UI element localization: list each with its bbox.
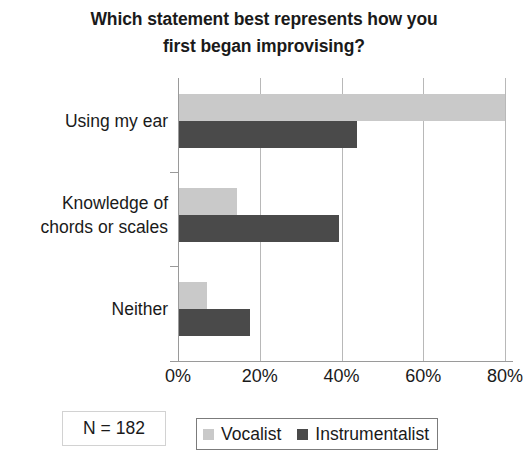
y-axis-category-label-line: chords or scales [0,215,168,239]
y-axis-category-label: Using my ear [0,109,168,133]
x-axis-tick-labels: 0%20%40%60%80% [0,366,528,396]
x-axis-tick-label: 0% [138,366,218,387]
plot-area [178,78,505,361]
bar-instrumentalist [178,121,357,148]
bar-instrumentalist [178,215,339,242]
legend-swatch-instrumentalist-icon [297,429,308,440]
y-axis-line [178,78,179,362]
legend-label-instrumentalist: Instrumentalist [315,424,429,445]
bar-vocalist [178,188,237,215]
x-axis-tick-label: 60% [383,366,463,387]
x-axis-tick-label: 80% [465,366,528,387]
y-axis-category-label-line: Knowledge of [0,191,168,215]
y-axis-category-label-line: Using my ear [0,109,168,133]
y-axis-category-label: Knowledge ofchords or scales [0,191,168,239]
legend-swatch-vocalist-icon [203,429,214,440]
y-axis-category-label: Neither [0,297,168,321]
x-axis-tick-label: 20% [220,366,300,387]
x-gridline [505,78,506,361]
sample-size-label: N = 182 [83,418,145,439]
y-axis-category-label-line: Neither [0,297,168,321]
legend-label-vocalist: Vocalist [221,424,281,445]
legend-item-vocalist: Vocalist [203,424,281,445]
bar-vocalist [178,94,505,121]
chart-plot-region: Using my earKnowledge ofchords or scales… [0,0,528,455]
chart-legend: Vocalist Instrumentalist [196,418,438,450]
x-axis-line [170,361,513,362]
bar-vocalist [178,282,207,309]
legend-item-instrumentalist: Instrumentalist [297,424,429,445]
sample-size-box: N = 182 [62,411,166,446]
x-axis-tick-label: 40% [302,366,382,387]
y-axis-category-labels: Using my earKnowledge ofchords or scales… [0,78,172,361]
bar-instrumentalist [178,309,250,336]
